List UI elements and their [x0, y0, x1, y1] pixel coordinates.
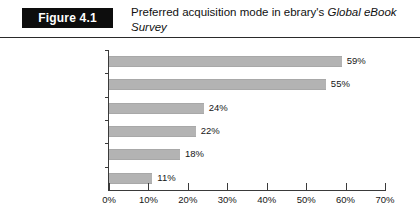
x-axis-tick-label: 10%: [128, 194, 168, 205]
bar: [109, 173, 152, 184]
bar-row: Patron driven24%: [109, 97, 385, 120]
x-axis-tick-label: 40%: [247, 194, 287, 205]
bar-row: Subscription55%: [109, 73, 385, 96]
x-axis-tick: [385, 183, 386, 190]
x-axis-tick-label: 0%: [89, 194, 129, 205]
x-axis-tick: [267, 183, 268, 190]
x-axis-tick: [109, 183, 110, 190]
bar: [109, 126, 196, 137]
x-axis-tick-label: 50%: [286, 194, 326, 205]
bar: [109, 79, 326, 90]
x-axis-tick: [346, 183, 347, 190]
x-axis-line: [108, 190, 386, 191]
bar-value-label: 18%: [185, 148, 204, 160]
x-axis-tick: [227, 183, 228, 190]
x-axis-tick-label: 20%: [168, 194, 208, 205]
bar: [109, 149, 180, 160]
x-axis-tick: [148, 183, 149, 190]
x-axis-tick-label: 60%: [326, 194, 366, 205]
y-axis-tick: [105, 143, 109, 144]
x-axis-tick: [306, 183, 307, 190]
bar-row: Other (please explain)11%: [109, 167, 385, 190]
header-divider: [0, 37, 420, 38]
x-axis-tick-label: 70%: [365, 194, 405, 205]
y-axis-tick: [105, 50, 109, 51]
x-axis-tick: [188, 183, 189, 190]
bar-value-label: 59%: [347, 55, 366, 67]
y-axis-tick: [105, 73, 109, 74]
bar: [109, 56, 342, 67]
bar: [109, 103, 204, 114]
bar-value-label: 22%: [201, 125, 220, 137]
bar-row: Pay-per-use22%: [109, 120, 385, 143]
bar-value-label: 55%: [331, 78, 350, 90]
bar-chart: Purchase59%Subscription55%Patron driven2…: [0, 42, 420, 215]
y-axis-tick: [105, 120, 109, 121]
bar-value-label: 24%: [209, 102, 228, 114]
bar-value-label: 11%: [157, 172, 175, 184]
bar-row: Purchase59%: [109, 50, 385, 73]
figure-title: Preferred acquisition mode in ebrary's G…: [131, 5, 409, 35]
figure-number-badge: Figure 4.1: [22, 8, 113, 28]
figure-title-lead: Preferred acquisition mode in ebrary's: [131, 6, 328, 18]
y-axis-tick: [105, 167, 109, 168]
plot-area: Purchase59%Subscription55%Patron driven2…: [109, 50, 385, 190]
bar-row: Lease-to-own18%: [109, 143, 385, 166]
y-axis-tick: [105, 97, 109, 98]
figure-header: Figure 4.1 Preferred acquisition mode in…: [0, 0, 420, 42]
x-axis-tick-label: 30%: [207, 194, 247, 205]
